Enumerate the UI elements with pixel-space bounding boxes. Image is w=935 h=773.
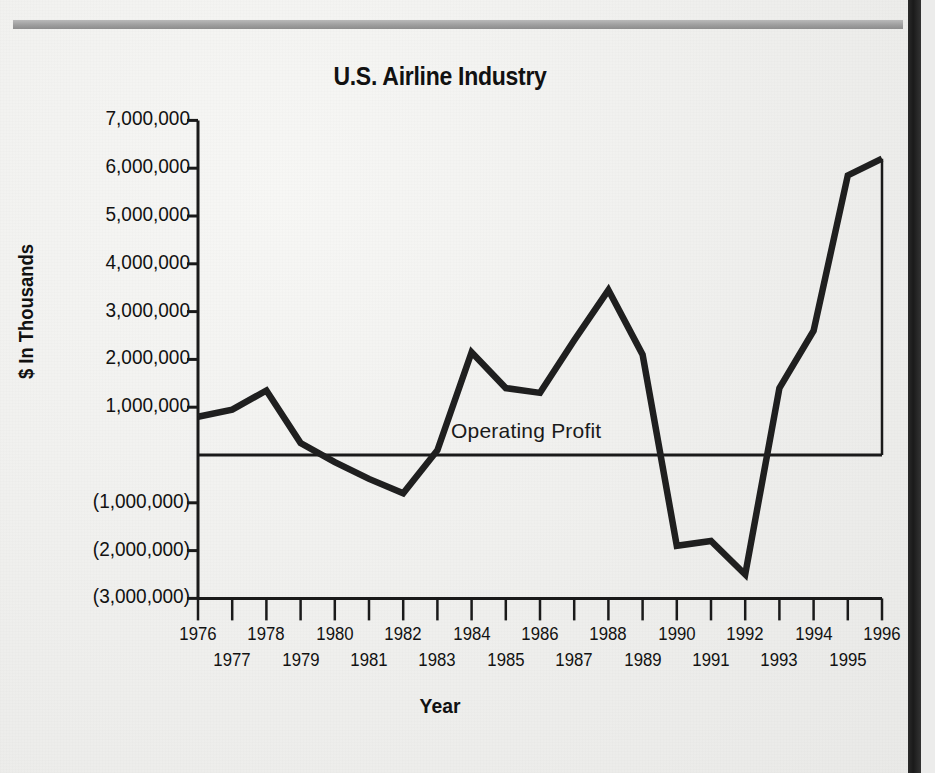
scan-gutter-bar — [908, 0, 921, 773]
chart-figure: U.S. Airline Industry $ In Thousands 7,0… — [0, 0, 908, 773]
data-series — [198, 159, 882, 575]
axes — [187, 120, 882, 620]
series-annotation-operating-profit: Operating Profit — [451, 419, 601, 443]
scan-right-margin — [921, 0, 935, 773]
x-axis-label: Year — [35, 694, 845, 718]
plot-area — [0, 0, 908, 773]
